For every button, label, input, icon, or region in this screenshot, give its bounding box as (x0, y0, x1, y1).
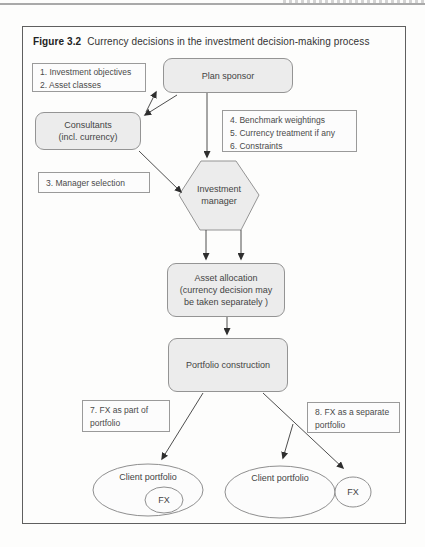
client-portfolio-left-label: Client portfolio (93, 471, 203, 483)
annotation-investment-objectives: 1. Investment objectives 2. Asset classe… (32, 63, 146, 92)
page: Figure 3.2Currency decisions in the inve… (0, 0, 425, 547)
node-plan-sponsor: Plan sponsor (163, 58, 293, 93)
fx-right-label: FX (335, 486, 371, 498)
node-asset-allocation: Asset allocation (currency decision may … (167, 263, 285, 317)
node-portfolio-construction: Portfolio construction (168, 338, 288, 392)
annotation-fx-part-of-portfolio: 7. FX as part of portfolio (82, 400, 170, 432)
annotation-manager-selection: 3. Manager selection (38, 172, 150, 193)
node-investment-manager-label: Investment manager (186, 183, 252, 207)
client-portfolio-right-label: Client portfolio (225, 472, 335, 484)
annotation-fx-separate-portfolio: 8. FX as a separate portfolio (307, 402, 400, 433)
annotation-benchmark-weightings: 4. Benchmark weightings 5. Currency trea… (222, 110, 357, 152)
fx-left-label: FX (145, 494, 183, 506)
arrow-branch-to-client-portfolio-right (283, 424, 293, 458)
node-consultants: Consultants (incl. currency) (35, 112, 141, 150)
